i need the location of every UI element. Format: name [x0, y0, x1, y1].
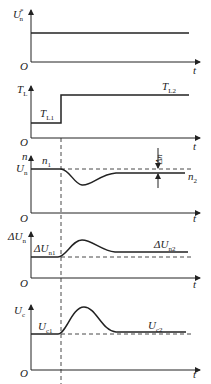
load-torque-signal	[31, 95, 189, 123]
panel-load-torque: TL O t TL1 TL2	[17, 80, 200, 152]
origin-label: O	[20, 60, 28, 72]
x-axis-label: t	[193, 278, 197, 290]
panel-speed: n Un O t n1 n2 Δn	[16, 148, 200, 224]
origin-label: O	[20, 367, 28, 379]
speed-signal	[31, 169, 185, 185]
delta-n-label: Δn	[154, 154, 164, 165]
waveform-diagram: U*n O t TL O t TL1 TL2 n Un O t n1 n2 Δn…	[0, 0, 211, 384]
y-axis-label: U*n	[13, 7, 24, 23]
label-n1: n1	[42, 154, 52, 169]
y-axis-label: Uc	[14, 304, 25, 319]
panel-speed-error: ΔUn O t ΔUn1 ΔUn2	[7, 230, 200, 290]
y-axis-label-Un: Un	[16, 162, 28, 177]
label-n2: n2	[188, 170, 198, 185]
y-axis-label: ΔUn	[7, 230, 26, 245]
origin-label: O	[20, 212, 28, 224]
origin-label: O	[20, 277, 28, 289]
label-TL2: TL2	[162, 80, 176, 95]
y-axis-label: TL	[17, 83, 27, 98]
panel-control-voltage: Uc O t Uc1 Uc2	[14, 304, 200, 380]
label-Uc1: Uc1	[38, 320, 53, 335]
panel-speed-reference: U*n O t	[13, 7, 200, 76]
x-axis-label: t	[193, 64, 197, 76]
origin-label: O	[20, 136, 28, 148]
label-dUn2: ΔUn2	[153, 238, 176, 253]
y-axis-label-n: n	[22, 150, 28, 162]
control-voltage-signal	[31, 307, 186, 334]
x-axis-label: t	[193, 212, 197, 224]
label-TL1: TL1	[40, 107, 54, 122]
label-dUn1: ΔUn1	[33, 242, 56, 257]
x-axis-label: t	[193, 140, 197, 152]
